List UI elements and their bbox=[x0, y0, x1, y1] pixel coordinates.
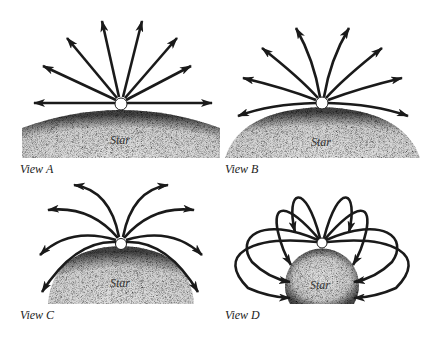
view-c-label: View C bbox=[20, 308, 54, 323]
view-d-panel: Star bbox=[235, 197, 408, 304]
star-label-d: Star bbox=[310, 278, 330, 292]
star-label-a: Star bbox=[110, 133, 130, 147]
view-c-panel: Star bbox=[40, 185, 202, 304]
view-b-panel: Star bbox=[225, 28, 420, 158]
emission-point-b bbox=[316, 97, 328, 109]
star-surface-d bbox=[285, 248, 359, 304]
view-a-label: View A bbox=[20, 162, 53, 177]
star-label-b: Star bbox=[311, 135, 331, 149]
view-d-label: View D bbox=[225, 308, 260, 323]
view-a-panel: Star bbox=[22, 21, 220, 158]
star-surface-c bbox=[48, 246, 194, 304]
view-b-label: View B bbox=[225, 162, 258, 177]
emission-point-c bbox=[116, 239, 127, 250]
field-lines-a bbox=[34, 21, 212, 103]
star-label-c: Star bbox=[110, 276, 130, 290]
emission-point-a bbox=[115, 98, 127, 110]
star-field-diagram: Star Star Star bbox=[0, 0, 437, 346]
star-surface-b bbox=[225, 107, 420, 158]
emission-point-d bbox=[317, 238, 327, 248]
